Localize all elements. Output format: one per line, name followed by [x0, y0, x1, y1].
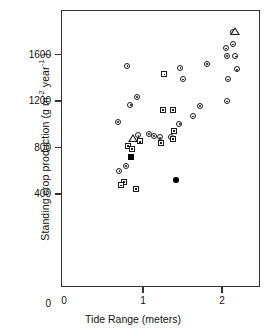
y-axis-tick-label: 1200 [11, 95, 51, 106]
y-axis-tick [55, 100, 61, 101]
data-point-circle [123, 163, 129, 169]
data-point-circle [225, 76, 231, 82]
data-point-square [170, 136, 176, 142]
data-point-circle [190, 113, 196, 119]
y-axis-tick [55, 54, 61, 55]
x-axis-tick [221, 287, 222, 293]
data-point-filled-square [128, 154, 134, 160]
data-point-square [160, 107, 166, 113]
data-point-triangle [230, 27, 240, 35]
data-point-square [118, 182, 124, 188]
y-axis-title-mid: year [39, 66, 51, 90]
y-axis-tick [55, 193, 61, 194]
data-point-circle [134, 94, 140, 100]
data-point-circle [204, 61, 210, 67]
y-axis-tick [55, 147, 61, 148]
y-axis-title-exponent-time: -1 [37, 59, 46, 66]
y-axis-title-pre: Standing crop production (g m [39, 97, 51, 241]
data-point-square [129, 146, 135, 152]
data-point-circle [115, 119, 121, 125]
data-point-square [170, 107, 176, 113]
x-axis-tick-label: 0 [52, 295, 76, 306]
data-point-circle [197, 103, 203, 109]
data-point-circle [180, 76, 186, 82]
x-axis-tick-label: 2 [210, 295, 234, 306]
data-point-circle [224, 53, 230, 59]
x-axis-tick-label: 1 [131, 295, 155, 306]
scatter-chart-figure: Standing crop production (g m-2 year-1 )… [0, 0, 266, 332]
y-axis-tick-label: 800 [11, 142, 51, 153]
data-point-square [158, 140, 164, 146]
data-point-square [161, 71, 167, 77]
data-point-square [137, 138, 143, 144]
x-axis-title: Tide Range (meters) [0, 313, 266, 325]
data-point-triangle [128, 134, 138, 142]
x-axis-tick [142, 287, 143, 293]
data-point-square [171, 128, 177, 134]
data-point-filled-circle [173, 177, 179, 183]
plot-area [61, 10, 260, 287]
data-point-circle [224, 98, 230, 104]
y-axis-origin-label: 0 [11, 298, 51, 309]
data-point-square [133, 186, 139, 192]
y-axis-tick-label: 400 [11, 188, 51, 199]
y-axis-tick-label: 1600 [11, 49, 51, 60]
